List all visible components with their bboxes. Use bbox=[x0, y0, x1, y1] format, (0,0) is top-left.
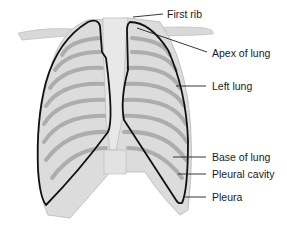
label-base-of-lung: Base of lung bbox=[212, 152, 270, 163]
vertebra bbox=[104, 150, 126, 174]
label-pleural-cavity: Pleural cavity bbox=[212, 169, 274, 180]
label-pleura: Pleura bbox=[212, 192, 242, 203]
thorax-diagram bbox=[0, 0, 287, 237]
label-left-lung: Left lung bbox=[212, 81, 252, 92]
rib-cage bbox=[18, 18, 213, 218]
leader-first-rib bbox=[133, 14, 163, 17]
label-first-rib: First rib bbox=[167, 9, 202, 20]
label-apex-of-lung: Apex of lung bbox=[212, 48, 270, 59]
